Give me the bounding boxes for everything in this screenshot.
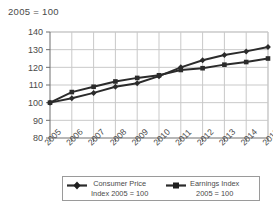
data-point-earnings-index <box>179 68 184 73</box>
data-point-earnings-index <box>157 73 162 78</box>
legend-label-earnings-index-line2: 2005 = 100 <box>190 189 239 199</box>
data-point-earnings-index <box>200 66 205 71</box>
legend-label-consumer-price: Consumer Price Index 2005 = 100 <box>91 179 148 198</box>
y-axis-tick-label: 130 <box>28 45 43 55</box>
data-point-earnings-index <box>48 100 53 105</box>
data-point-earnings-index <box>70 90 75 95</box>
data-point-earnings-index <box>266 56 271 61</box>
y-axis-tick-label: 80 <box>33 133 43 143</box>
legend-item-earnings-index: Earnings Index 2005 = 100 <box>165 179 256 198</box>
y-axis-tick-label: 120 <box>28 63 43 73</box>
data-point-earnings-index <box>135 76 140 81</box>
legend-label-earnings-index-line1: Earnings Index <box>190 179 239 188</box>
legend-label-consumer-price-line2: Index 2005 = 100 <box>91 189 148 199</box>
data-point-earnings-index <box>222 62 227 67</box>
data-point-earnings-index <box>244 60 249 65</box>
legend-label-consumer-price-line1: Consumer Price <box>93 179 146 188</box>
legend-item-consumer-price: Consumer Price Index 2005 = 100 <box>66 179 165 198</box>
y-axis-ticks <box>46 32 50 138</box>
data-point-earnings-index <box>113 79 118 84</box>
legend-label-earnings-index: Earnings Index 2005 = 100 <box>190 179 239 198</box>
y-axis-tick-label: 110 <box>29 80 43 90</box>
legend-swatch-square-icon <box>165 180 187 191</box>
y-axis-tick-label: 100 <box>28 98 43 108</box>
data-point-earnings-index <box>91 84 96 89</box>
y-axis-tick-label: 140 <box>28 27 43 37</box>
y-axis-tick-labels: 8090100110120130140 <box>28 27 43 143</box>
legend-swatch-diamond-icon <box>66 180 88 191</box>
y-axis-tick-label: 90 <box>33 116 43 126</box>
chart-legend: Consumer Price Index 2005 = 100 Earnings… <box>62 176 260 201</box>
chart-container: 2005 = 100 8090100110120130140 200520062… <box>0 0 273 207</box>
